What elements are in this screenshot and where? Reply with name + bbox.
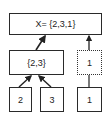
root-node-label: X= {2,3,1} xyxy=(36,19,76,29)
leaf-node-3: 3 xyxy=(40,87,64,112)
middle-node-dotted-1-label: 1 xyxy=(87,58,92,68)
leaf-node-1-label: 1 xyxy=(87,95,92,105)
leaf-node-1: 1 xyxy=(77,87,102,112)
root-node: X= {2,3,1} xyxy=(9,13,102,35)
leaf-node-3-label: 3 xyxy=(49,95,54,105)
edge-set23-to-root xyxy=(36,36,45,50)
edge-3-to-set23 xyxy=(39,76,51,87)
middle-node-set23-label: {2,3} xyxy=(27,58,46,68)
middle-node-dotted-1: 1 xyxy=(77,50,102,75)
leaf-node-2: 2 xyxy=(9,87,32,112)
middle-node-set23: {2,3} xyxy=(9,50,64,75)
edge-2-to-set23 xyxy=(19,76,31,87)
leaf-node-2-label: 2 xyxy=(18,95,23,105)
